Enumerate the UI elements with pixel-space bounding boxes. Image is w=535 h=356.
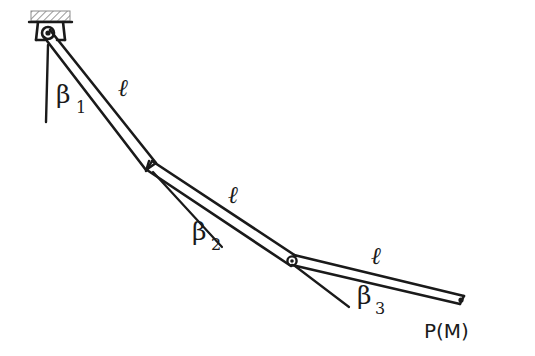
end-point-marker [458,297,463,302]
angle-beta-3-symbol: β [357,281,371,310]
link-1-length-label: ℓ [118,74,128,102]
angle-beta-1-subscript: 1 [76,98,86,117]
link-2-body [147,161,296,266]
fixed-support-group [29,11,72,40]
beta-1-reference-line [46,45,48,122]
angle-beta-1-symbol: β [56,80,70,109]
link-2-edge-upper [152,161,296,256]
angle-beta-2-symbol: β [192,217,206,246]
angle-beta-3-subscript: 3 [375,299,385,318]
joint-2-pin-center [290,259,294,263]
support-hatch-bar [31,11,70,21]
link-3-length-label: ℓ [371,242,381,270]
angle-beta-2-subscript: 2 [211,235,221,254]
end-point-label: P(M) [424,319,469,343]
link-2-length-label: ℓ [228,181,238,209]
joint-0-pivot-center [45,30,50,35]
diagram-svg: ℓ ℓ ℓ β 1 β 2 β 3 P(M) [0,0,535,356]
pendulum-diagram-canvas: ℓ ℓ ℓ β 1 β 2 β 3 P(M) [0,0,535,356]
